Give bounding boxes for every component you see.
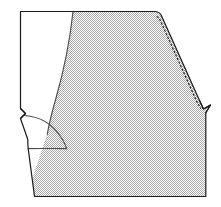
pattern-svg xyxy=(0,0,221,207)
pattern-diagram xyxy=(0,0,221,207)
